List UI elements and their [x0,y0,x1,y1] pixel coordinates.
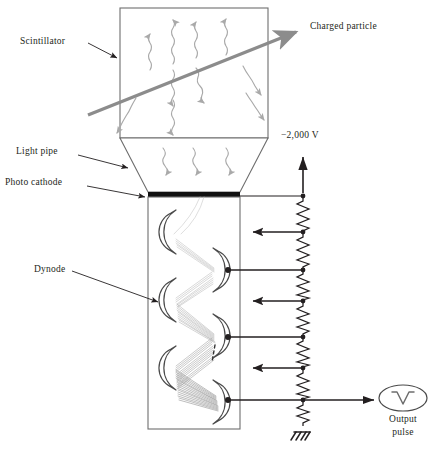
diagram-canvas [0,0,431,459]
label-light-pipe: Light pipe [16,146,58,157]
scintillation-detector-figure: Scintillator Light pipe Photo cathode Dy… [0,0,431,459]
ground-icon [291,432,310,440]
label-scintillator: Scintillator [20,36,65,47]
photo-cathode [148,192,240,197]
leader-scintillator [88,43,117,58]
label-supply-voltage: −2,000 V [281,130,319,141]
leader-light-pipe [78,155,128,168]
label-output-pulse-line2: pulse [379,427,427,438]
leader-photo-cathode [87,186,145,197]
label-dynode: Dynode [34,264,66,275]
label-photo-cathode: Photo cathode [5,177,62,188]
output-pulse-scope [379,385,427,411]
label-output-pulse-line1: Output [379,414,427,425]
voltage-divider-chain [225,157,374,440]
label-charged-particle: Charged particle [310,21,377,32]
leader-dynode [72,271,158,302]
